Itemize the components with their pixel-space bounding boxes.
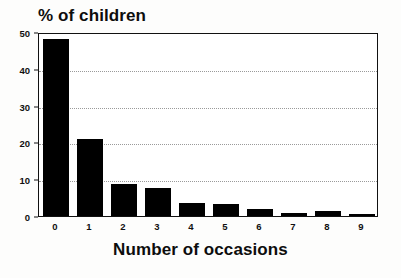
x-tick-label: 2 <box>120 221 125 232</box>
y-tick-label: 0 <box>25 212 30 223</box>
x-tick-label: 8 <box>324 221 329 232</box>
x-tick-label: 5 <box>222 221 227 232</box>
x-tick-label: 1 <box>86 221 91 232</box>
chart-title: % of children <box>38 6 146 26</box>
x-tick-label: 7 <box>290 221 295 232</box>
x-tick-label: 6 <box>256 221 261 232</box>
x-tick-label: 0 <box>52 221 57 232</box>
bar <box>247 209 273 216</box>
x-axis: 0123456789 <box>38 217 378 237</box>
y-tick-label: 20 <box>19 138 30 149</box>
bar <box>77 139 103 216</box>
plot-area <box>38 33 378 217</box>
x-tick-label: 9 <box>358 221 363 232</box>
y-tick-label: 50 <box>19 28 30 39</box>
bar <box>145 188 171 216</box>
y-tick-label: 30 <box>19 101 30 112</box>
bar <box>111 184 137 216</box>
x-tick-label: 3 <box>154 221 159 232</box>
bar <box>349 214 375 216</box>
x-tick-label: 4 <box>188 221 193 232</box>
bar <box>315 211 341 216</box>
chart-figure: % of children 01020304050 0123456789 Num… <box>0 0 401 278</box>
y-axis: 01020304050 <box>0 33 38 217</box>
x-axis-label: Number of occasions <box>0 240 401 260</box>
y-tick-label: 40 <box>19 64 30 75</box>
bar <box>43 39 69 216</box>
bar-series <box>39 34 377 216</box>
bar <box>179 203 205 216</box>
bar <box>281 213 307 216</box>
bar <box>213 204 239 216</box>
y-tick-label: 10 <box>19 175 30 186</box>
